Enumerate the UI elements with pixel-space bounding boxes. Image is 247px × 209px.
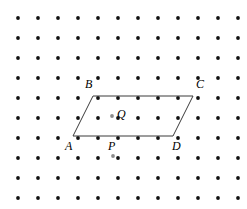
grid-dot	[76, 196, 80, 200]
parallelogram-shape	[73, 96, 193, 136]
grid-dot	[156, 136, 160, 140]
grid-dot	[136, 156, 140, 160]
grid-dot	[36, 156, 40, 160]
grid-dot	[96, 176, 100, 180]
grid-dot	[216, 176, 220, 180]
grid-dot	[16, 136, 20, 140]
label-D: D	[172, 140, 181, 152]
geometry-figure: ABCDPQ	[0, 0, 247, 209]
grid-dot	[76, 16, 80, 20]
grid-dot	[96, 36, 100, 40]
grid-dot	[196, 176, 200, 180]
grid-dot	[176, 36, 180, 40]
grid-dot	[116, 56, 120, 60]
label-P: P	[108, 140, 115, 152]
grid-dot	[216, 136, 220, 140]
label-B: B	[85, 78, 92, 90]
grid-dot	[196, 16, 200, 20]
grid-dot	[36, 76, 40, 80]
grid-dot	[56, 76, 60, 80]
grid-dot	[156, 36, 160, 40]
grid-dot	[136, 96, 140, 100]
grid-dot	[156, 96, 160, 100]
grid-dot	[116, 96, 120, 100]
grid-dot	[16, 116, 20, 120]
grid-dot	[236, 56, 240, 60]
grid-dot	[76, 136, 80, 140]
grid-dot	[196, 116, 200, 120]
grid-dot	[96, 16, 100, 20]
grid-dot	[16, 96, 20, 100]
grid-dot	[56, 196, 60, 200]
grid-dot	[236, 96, 240, 100]
grid-dot	[76, 176, 80, 180]
grid-dot	[96, 56, 100, 60]
grid-dot	[156, 56, 160, 60]
grid-dot	[116, 196, 120, 200]
grid-dot	[116, 36, 120, 40]
grid-dot	[156, 176, 160, 180]
grid-dot	[116, 16, 120, 20]
grid-dot	[196, 96, 200, 100]
grid-dot	[196, 36, 200, 40]
grid-dot	[76, 36, 80, 40]
grid-dot	[96, 196, 100, 200]
grid-dot	[156, 196, 160, 200]
parallelogram-outline	[73, 96, 193, 136]
grid-dot	[96, 116, 100, 120]
grid-dot	[136, 136, 140, 140]
grid-dot	[16, 196, 20, 200]
grid-dot	[96, 156, 100, 160]
grid-dot	[96, 76, 100, 80]
grid-dot	[76, 56, 80, 60]
grid-dot	[156, 156, 160, 160]
grid-dot-layer	[16, 16, 240, 200]
grid-dot	[56, 176, 60, 180]
grid-dot	[236, 176, 240, 180]
grid-dot	[136, 196, 140, 200]
grid-dot	[156, 116, 160, 120]
grid-dot	[136, 36, 140, 40]
grid-dot	[216, 36, 220, 40]
grid-dot	[136, 16, 140, 20]
grid-dot	[96, 96, 100, 100]
grid-dot	[176, 176, 180, 180]
grid-dot	[216, 116, 220, 120]
grid-dot	[16, 76, 20, 80]
grid-dot	[196, 156, 200, 160]
grid-dot	[216, 16, 220, 20]
grid-dot	[236, 76, 240, 80]
grid-dot	[196, 56, 200, 60]
grid-dot	[16, 56, 20, 60]
gray-marker-dot	[110, 114, 114, 118]
grid-dot	[56, 96, 60, 100]
grid-dot	[216, 196, 220, 200]
grid-dot	[156, 76, 160, 80]
grid-dot	[16, 156, 20, 160]
grid-dot	[236, 156, 240, 160]
grid-dot	[56, 156, 60, 160]
grid-dot	[56, 36, 60, 40]
grid-dot	[76, 76, 80, 80]
grid-dot	[236, 196, 240, 200]
grid-dot	[56, 116, 60, 120]
grid-dot	[136, 176, 140, 180]
grid-dot	[116, 76, 120, 80]
grid-dot	[216, 156, 220, 160]
grid-dot	[76, 156, 80, 160]
grid-dot	[176, 116, 180, 120]
grid-dot	[36, 36, 40, 40]
grid-dot	[176, 16, 180, 20]
gray-marker-dot	[111, 154, 115, 158]
label-A: A	[65, 140, 72, 152]
grid-dot	[236, 36, 240, 40]
grid-dot	[36, 16, 40, 20]
grid-dot	[36, 116, 40, 120]
grid-dot	[16, 176, 20, 180]
grid-dot	[216, 56, 220, 60]
grid-dot	[156, 16, 160, 20]
grid-dot	[36, 176, 40, 180]
grid-dot	[116, 176, 120, 180]
grid-dot	[76, 96, 80, 100]
grid-dot	[116, 136, 120, 140]
